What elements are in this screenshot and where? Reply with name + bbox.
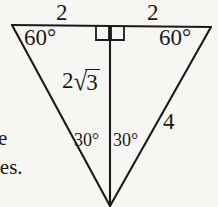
right-angle-marker-right-icon	[111, 26, 124, 40]
geometry-figure: 2 2 60° 60° 2 √ 3 30° 30° 4 e les.	[0, 0, 218, 207]
radical-group: √ 3	[74, 69, 100, 94]
body-text-fragment-line-2: les.	[0, 157, 23, 178]
radical-sign-icon: √	[74, 68, 88, 94]
label-right-side-length: 4	[163, 110, 175, 133]
body-text-fragment-line-1: e	[0, 128, 7, 149]
label-altitude-length: 2 √ 3	[62, 69, 100, 94]
label-top-left-length: 2	[56, 1, 68, 24]
right-side-line	[110, 27, 211, 206]
label-base-angle-right: 60°	[159, 26, 191, 49]
left-side-line	[12, 25, 110, 206]
label-apex-angle-right: 30°	[113, 131, 138, 149]
altitude-coefficient: 2	[62, 69, 74, 92]
right-angle-marker-left-icon	[96, 26, 109, 40]
label-top-right-length: 2	[147, 1, 159, 24]
label-base-angle-left: 60°	[24, 26, 56, 49]
label-apex-angle-left: 30°	[74, 131, 99, 149]
